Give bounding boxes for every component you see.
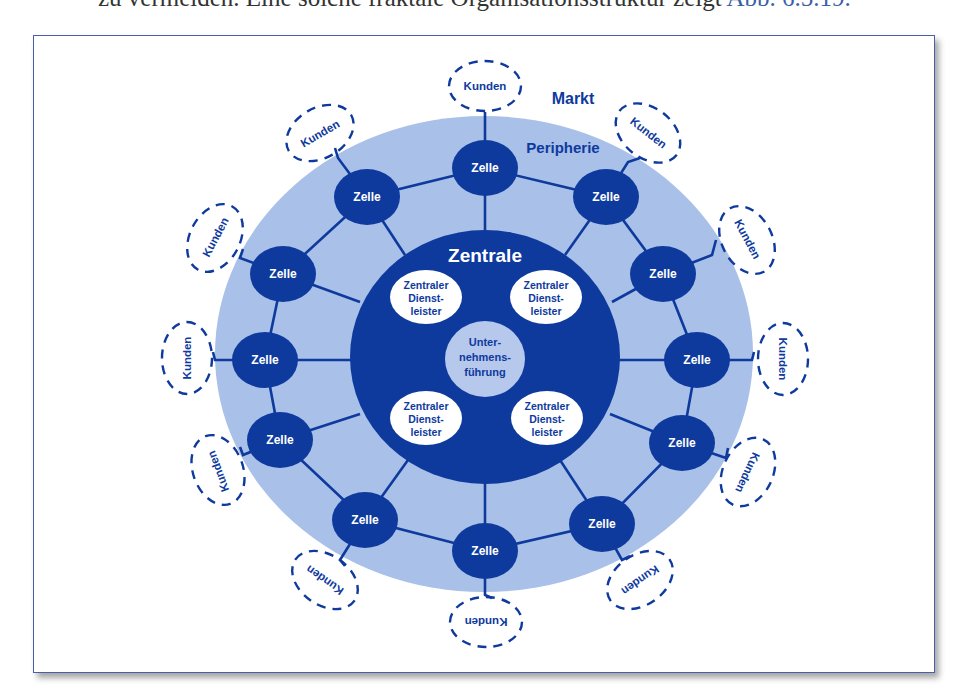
customer-9[interactable]: Kunden	[205, 449, 231, 493]
cell-2[interactable]: Zelle	[573, 169, 639, 225]
cell-label: Zelle	[588, 517, 616, 531]
customer-12[interactable]: Kunden	[298, 118, 341, 150]
customer-10[interactable]: Kunden	[181, 337, 193, 380]
fractal-organization-diagram: Zentrale Unter- nehmens- führung Zentral…	[0, 0, 971, 698]
service-provider-label-line1: Zentraler	[525, 400, 570, 412]
management-label-line2: nehmens-	[459, 351, 511, 363]
headquarters-label: Zentrale	[448, 245, 522, 266]
cell-10[interactable]: Zelle	[232, 332, 298, 388]
cell-4[interactable]: Zelle	[664, 332, 730, 388]
service-provider-label-line3: leister	[532, 426, 563, 438]
customer-6[interactable]: Kunden	[619, 563, 661, 597]
service-provider-label-line1: Zentraler	[404, 279, 449, 291]
service-provider-top-left[interactable]: Zentraler Dienst- leister	[390, 270, 462, 324]
market-label: Markt	[552, 90, 595, 107]
customer-7[interactable]: Kunden	[465, 616, 508, 628]
service-provider-top-right[interactable]: Zentraler Dienst- leister	[510, 270, 582, 324]
management-label-line1: Unter-	[469, 336, 502, 348]
cell-label: Zelle	[668, 436, 696, 450]
service-provider-label-line3: leister	[411, 305, 442, 317]
cell-5[interactable]: Zelle	[649, 415, 715, 471]
periphery-label: Peripherie	[526, 139, 599, 156]
cell-label: Zelle	[351, 513, 379, 527]
cell-label: Zelle	[251, 353, 279, 367]
cell-7[interactable]: Zelle	[452, 523, 518, 579]
cell-label: Zelle	[353, 190, 381, 204]
service-provider-label-line3: leister	[531, 305, 562, 317]
customer-2[interactable]: Kunden	[628, 115, 669, 151]
customer-11[interactable]: Kunden	[200, 215, 231, 258]
customer-5[interactable]: Kunden	[733, 451, 762, 495]
service-provider-label-line3: leister	[411, 426, 442, 438]
customer-3[interactable]: Kunden	[732, 217, 763, 260]
service-provider-label-line1: Zentraler	[404, 400, 449, 412]
cell-9[interactable]: Zelle	[247, 412, 313, 468]
service-provider-bottom-right[interactable]: Zentraler Dienst- leister	[511, 391, 583, 445]
cell-label: Zelle	[471, 161, 499, 175]
cell-label: Zelle	[266, 433, 294, 447]
service-provider-label-line2: Dienst-	[408, 292, 444, 304]
cell-8[interactable]: Zelle	[332, 492, 398, 548]
cell-3[interactable]: Zelle	[630, 246, 696, 302]
management-label-line3: führung	[464, 366, 506, 378]
service-provider-label-line2: Dienst-	[529, 413, 565, 425]
cell-1[interactable]: Zelle	[452, 140, 518, 196]
service-provider-label-line2: Dienst-	[408, 413, 444, 425]
customer-1[interactable]: Kunden	[464, 80, 507, 92]
cell-label: Zelle	[592, 190, 620, 204]
service-provider-label-line1: Zentraler	[524, 279, 569, 291]
customer-8[interactable]: Kunden	[304, 563, 346, 597]
service-provider-bottom-left[interactable]: Zentraler Dienst- leister	[390, 391, 462, 445]
cell-label: Zelle	[471, 544, 499, 558]
service-provider-label-line2: Dienst-	[528, 292, 564, 304]
cell-6[interactable]: Zelle	[569, 496, 635, 552]
cell-label: Zelle	[683, 353, 711, 367]
customer-4[interactable]: Kunden	[777, 338, 789, 381]
cell-11[interactable]: Zelle	[250, 246, 316, 302]
cell-12[interactable]: Zelle	[334, 169, 400, 225]
cell-label: Zelle	[269, 267, 297, 281]
cell-label: Zelle	[649, 267, 677, 281]
